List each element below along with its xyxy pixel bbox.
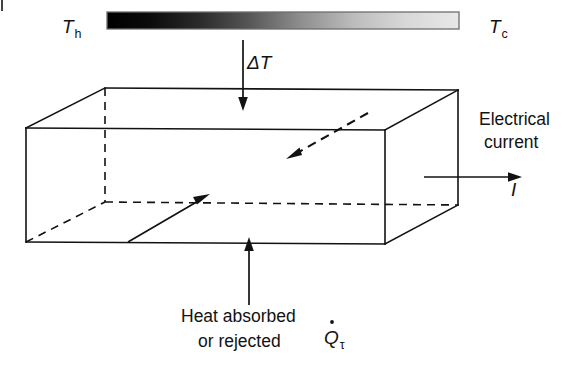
heat-flow-label: Heat absorbed or rejected [181, 306, 296, 351]
current-symbol: I [511, 179, 517, 200]
svg-text:ΔT: ΔT [246, 52, 273, 73]
heat-flow-line-2: or rejected [198, 331, 281, 351]
delta-t-text: ΔT [246, 52, 273, 73]
electrical-current-arrow [424, 172, 522, 182]
hot-temperature-subscript: h [75, 27, 82, 41]
thomson-effect-figure: Th Tc ΔT [0, 0, 574, 371]
edge-top-front [26, 128, 385, 130]
thomson-heat-letter: Q [324, 327, 339, 348]
cold-temperature-subscript: c [502, 27, 508, 41]
rate-overdot [330, 320, 334, 324]
cold-temperature-label: Tc [489, 16, 508, 41]
temperature-gradient-bar [107, 12, 459, 29]
heat-conduction-arrow-dashed [286, 113, 368, 159]
edge-front-bottom [26, 242, 385, 244]
edge-top-left-depth [26, 88, 105, 128]
delta-t-arrow [238, 40, 248, 111]
thomson-heat-symbol: Qτ [324, 320, 345, 352]
heat-flow-line-1: Heat absorbed [181, 306, 296, 326]
svg-text:Qτ: Qτ [324, 327, 345, 352]
heat-flow-arrow [244, 237, 254, 305]
edge-bottom-right-depth [385, 205, 458, 244]
hot-temperature-symbol: T [62, 16, 75, 37]
carrier-flow-arrow-solid [128, 194, 210, 242]
electrical-current-line-2: current [484, 132, 539, 152]
hidden-edge-bottom-back [105, 202, 458, 205]
cold-temperature-symbol: T [489, 16, 502, 37]
svg-text:Tc: Tc [489, 16, 508, 41]
delta-t-label: ΔT [246, 52, 273, 73]
electrical-current-label: Electrical current I [479, 109, 550, 200]
edge-top-right-depth [385, 90, 458, 130]
figure-canvas: Th Tc ΔT [0, 0, 574, 371]
electrical-current-line-1: Electrical [479, 109, 550, 129]
edge-top-back [105, 88, 458, 90]
conductor-block [26, 88, 458, 244]
svg-text:Th: Th [62, 16, 82, 41]
hot-temperature-label: Th [62, 16, 82, 41]
thomson-heat-subscript: τ [340, 338, 345, 352]
hidden-edge-bottom-left-depth [26, 202, 105, 242]
